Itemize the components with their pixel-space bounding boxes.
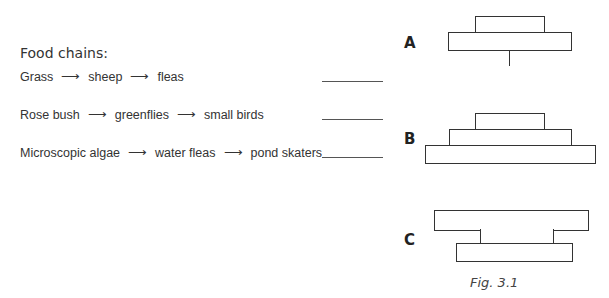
- organism: sheep: [88, 70, 122, 84]
- pyramid-label-c: C: [404, 231, 415, 249]
- pyramid-c-bottom-bar: [456, 243, 573, 262]
- organism: Microscopic algae: [20, 146, 120, 160]
- pyramid-label-a: A: [404, 34, 416, 52]
- pyramid-a-stem: [509, 50, 510, 66]
- arrow-icon: ⟶: [128, 146, 147, 160]
- arrow-icon: ⟶: [61, 70, 80, 84]
- arrow-icon: ⟶: [224, 146, 243, 160]
- food-chain-3: Microscopic algae⟶water fleas⟶pond skate…: [20, 145, 322, 160]
- food-chain-1: Grass⟶sheep⟶fleas: [20, 69, 184, 84]
- organism: Rose bush: [20, 108, 80, 122]
- food-chains-question: Food chains: Grass⟶sheep⟶fleas Rose bush…: [0, 0, 609, 298]
- organism: greenflies: [115, 108, 169, 122]
- answer-blank-2[interactable]: [322, 119, 383, 120]
- organism: Grass: [20, 70, 53, 84]
- figure-caption: Fig. 3.1: [470, 275, 518, 290]
- pyramid-label-b: B: [404, 130, 415, 148]
- pyramid-c-top-bar: [434, 210, 589, 231]
- food-chains-heading: Food chains:: [20, 45, 108, 61]
- food-chain-2: Rose bush⟶greenflies⟶small birds: [20, 107, 264, 122]
- organism: fleas: [157, 70, 183, 84]
- answer-blank-3[interactable]: [322, 157, 383, 158]
- organism: water fleas: [155, 146, 215, 160]
- arrow-icon: ⟶: [130, 70, 149, 84]
- pyramid-a-bottom-bar: [448, 32, 572, 51]
- organism: small birds: [204, 108, 264, 122]
- answer-blank-1[interactable]: [322, 81, 383, 82]
- arrow-icon: ⟶: [177, 108, 196, 122]
- pyramid-b-bottom-bar: [425, 145, 596, 164]
- arrow-icon: ⟶: [88, 108, 107, 122]
- organism: pond skaters: [251, 146, 323, 160]
